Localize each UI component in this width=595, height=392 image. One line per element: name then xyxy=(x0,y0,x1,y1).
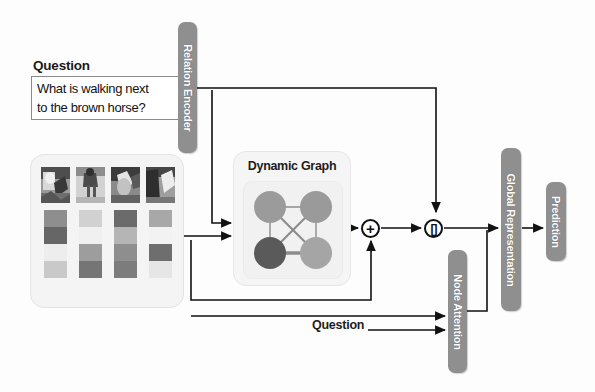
feature-segment xyxy=(44,244,67,261)
concat-operator-icon: [] xyxy=(424,219,443,238)
region-feature-bar-2 xyxy=(79,210,102,278)
dynamic-graph-inner-panel xyxy=(243,181,343,279)
dynamic-graph-svg xyxy=(244,182,342,278)
region-thumbnail-2 xyxy=(76,167,105,203)
feature-segment xyxy=(79,227,102,244)
graph-node-top-left xyxy=(254,191,286,223)
dynamic-graph-panel: Dynamic Graph xyxy=(233,151,351,286)
question-bottom-label: Question xyxy=(312,318,364,332)
feature-segment xyxy=(149,227,172,244)
module-node-attention[interactable]: Node Attention xyxy=(448,250,467,373)
region-thumbnail-1 xyxy=(41,167,70,203)
image-region-3 xyxy=(111,167,140,278)
prediction-label: Prediction xyxy=(550,196,562,248)
feature-segment xyxy=(79,210,102,227)
region-feature-bar-3 xyxy=(114,210,137,278)
graph-node-bottom-right xyxy=(300,237,332,269)
graph-node-bottom-left xyxy=(254,237,286,269)
image-region-1 xyxy=(41,167,70,278)
region-thumbnail-3 xyxy=(111,167,140,203)
module-global-representation[interactable]: Global Representation xyxy=(501,148,521,311)
dynamic-graph-title: Dynamic Graph xyxy=(234,159,350,173)
question-input-box[interactable]: What is walking next to the brown horse? xyxy=(31,76,180,120)
feature-segment xyxy=(114,227,137,244)
wire-nodeatt-to-global xyxy=(467,230,487,311)
module-prediction[interactable]: Prediction xyxy=(546,182,566,261)
region-feature-bar-4 xyxy=(149,210,172,278)
feature-segment xyxy=(44,261,67,278)
wire-relenc-to-graph xyxy=(212,90,231,223)
feature-segment xyxy=(149,261,172,278)
diagram-canvas: Question What is walking next to the bro… xyxy=(0,0,595,392)
feature-segment xyxy=(44,227,67,244)
region-thumbnail-4 xyxy=(146,167,175,203)
feature-segment xyxy=(44,210,67,227)
global-representation-label: Global Representation xyxy=(505,173,517,286)
module-relation-encoder[interactable]: Relation Encoder xyxy=(178,22,197,153)
region-feature-bar-1 xyxy=(44,210,67,278)
feature-segment xyxy=(79,261,102,278)
feature-segment xyxy=(149,210,172,227)
add-operator-icon: + xyxy=(361,219,380,238)
feature-segment xyxy=(114,210,137,227)
graph-node-top-right xyxy=(300,191,332,223)
feature-segment xyxy=(114,261,137,278)
question-text: What is walking next to the brown horse? xyxy=(37,79,175,117)
image-region-4 xyxy=(146,167,175,278)
question-title: Question xyxy=(33,58,90,73)
feature-segment xyxy=(79,244,102,261)
node-attention-label: Node Attention xyxy=(452,274,464,350)
feature-segment xyxy=(114,244,137,261)
image-region-2 xyxy=(76,167,105,278)
relation-encoder-label: Relation Encoder xyxy=(182,44,194,131)
image-region-panel xyxy=(30,154,184,308)
feature-segment xyxy=(149,244,172,261)
